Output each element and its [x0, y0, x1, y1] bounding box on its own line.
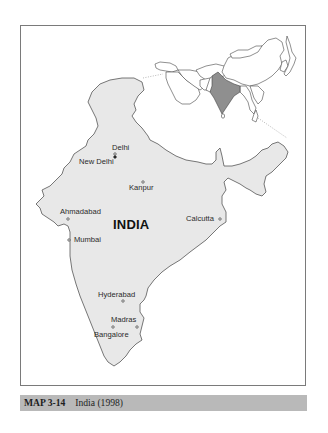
madras-marker-icon [136, 326, 138, 328]
label-new-delhi: New Delhi [79, 158, 114, 166]
connector-line-south [258, 118, 287, 138]
label-delhi: Delhi [112, 144, 129, 152]
label-mumbai: Mumbai [74, 236, 101, 244]
india-mainland [36, 78, 288, 366]
label-calcutta: Calcutta [186, 215, 214, 223]
map-caption: MAP 3-14India (1998) [20, 395, 307, 411]
caption-number: MAP 3-14 [24, 397, 65, 408]
connector-line-north [143, 74, 163, 78]
bangalore-marker-icon [112, 326, 114, 328]
ahmadabad-marker-icon [67, 218, 69, 220]
india-map [0, 0, 328, 433]
mumbai-marker-icon [68, 239, 70, 241]
label-ahmadabad: Ahmadabad [60, 208, 101, 216]
label-kanpur: Kanpur [129, 184, 154, 192]
country-label-india: INDIA [113, 218, 149, 231]
label-hyderabad: Hyderabad [98, 291, 135, 299]
new-delhi-capital-icon [114, 156, 117, 159]
hyderabad-marker-icon [122, 300, 124, 302]
label-madras: Madras [111, 316, 136, 324]
delhi-marker-icon [114, 153, 116, 155]
caption-title: India (1998) [75, 397, 123, 408]
calcutta-marker-icon [219, 218, 221, 220]
label-bangalore: Bangalore [94, 331, 129, 339]
